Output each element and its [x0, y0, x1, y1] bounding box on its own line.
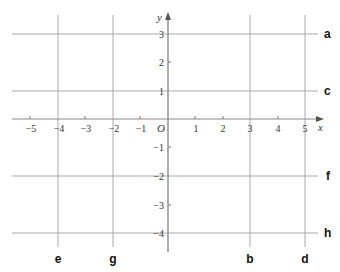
- x-tick-label: −5: [26, 123, 37, 134]
- x-tick-labels: −5 −4 −3 −2 −1 1 2 3 4 5: [26, 123, 308, 134]
- y-tick-label: −4: [153, 228, 164, 239]
- label-d: d: [301, 252, 308, 266]
- label-c: c: [324, 84, 331, 98]
- x-tick-label: 4: [276, 123, 281, 134]
- x-tick-label: 1: [194, 123, 199, 134]
- label-f: f: [326, 169, 331, 183]
- origin-label: O: [157, 122, 165, 134]
- x-tick-label: −4: [54, 123, 65, 134]
- y-tick-label: 2: [159, 57, 164, 68]
- label-h: h: [324, 226, 331, 240]
- x-tick-label: 5: [303, 123, 308, 134]
- y-axis: [165, 12, 171, 252]
- vertical-line-labels: e g b d: [55, 252, 309, 266]
- label-g: g: [109, 252, 116, 266]
- coordinate-grid-diagram: −5 −4 −3 −2 −1 1 2 3 4 5 3 2 1 −1 −2 −3 …: [0, 0, 340, 272]
- horizontal-line-labels: a c f h: [324, 27, 331, 240]
- y-tick-label: −3: [153, 200, 164, 211]
- y-tick-label: 3: [159, 29, 164, 40]
- x-tick-label: 3: [248, 123, 253, 134]
- label-b: b: [246, 252, 253, 266]
- x-tick-label: 2: [221, 123, 226, 134]
- x-tick-label: −2: [109, 123, 120, 134]
- vertical-lines: [58, 15, 305, 247]
- y-tick-label: −2: [153, 171, 164, 182]
- x-axis-label: x: [317, 121, 323, 133]
- label-e: e: [55, 252, 62, 266]
- x-tick-label: −1: [136, 123, 147, 134]
- x-tick-label: −3: [81, 123, 92, 134]
- label-a: a: [324, 27, 331, 41]
- y-tick-labels: 3 2 1 −1 −2 −3 −4: [153, 29, 164, 239]
- y-axis-label: y: [156, 11, 162, 23]
- y-tick-label: −1: [153, 142, 164, 153]
- y-tick-label: 1: [159, 86, 164, 97]
- y-axis-arrow-icon: [165, 12, 171, 20]
